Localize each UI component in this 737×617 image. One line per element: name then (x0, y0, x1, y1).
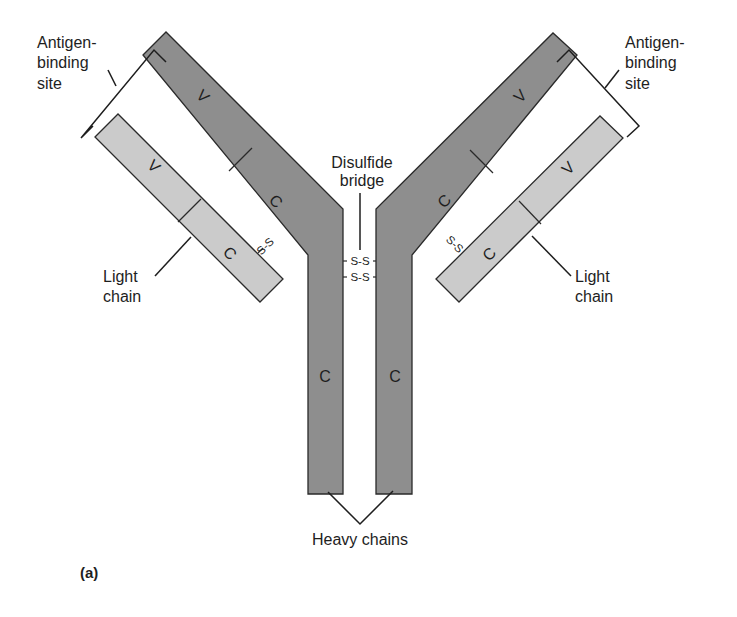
heavy-chains-callout: Heavy chains (312, 491, 408, 548)
left-antigen-binding-callout: Antigen- binding site (37, 34, 166, 138)
right-antigen-line3: site (625, 75, 650, 92)
left-antigen-line3: site (37, 75, 62, 92)
right-antigen-line1: Antigen- (625, 34, 685, 51)
antibody-diagram: V C C V C C V C V C S-S S-S S-S S-S (0, 0, 737, 617)
left-light-line2: chain (103, 288, 141, 305)
right-light-line2: chain (575, 288, 613, 305)
disulfide-label-line2: bridge (340, 172, 385, 189)
right-heavy-constant-stem-label: C (389, 368, 401, 385)
right-antigen-binding-callout: Antigen- binding site (557, 34, 685, 137)
panel-label: (a) (80, 564, 98, 581)
left-antigen-line1: Antigen- (37, 34, 97, 51)
right-light-line1: Light (575, 268, 610, 285)
left-light-line1: Light (103, 268, 138, 285)
left-heavy-constant-stem-label: C (319, 368, 331, 385)
hinge-disulfide-bonds: S-S S-S (343, 255, 376, 283)
left-light-chain-callout: Light chain (103, 237, 191, 305)
hinge-ss-bottom-label: S-S (350, 271, 370, 283)
right-antigen-line2: binding (625, 54, 677, 71)
disulfide-label-line1: Disulfide (331, 154, 392, 171)
hinge-ss-top-label: S-S (350, 255, 370, 267)
left-antigen-line2: binding (37, 54, 89, 71)
heavy-chains-label: Heavy chains (312, 531, 408, 548)
right-light-chain-callout: Light chain (532, 236, 613, 305)
